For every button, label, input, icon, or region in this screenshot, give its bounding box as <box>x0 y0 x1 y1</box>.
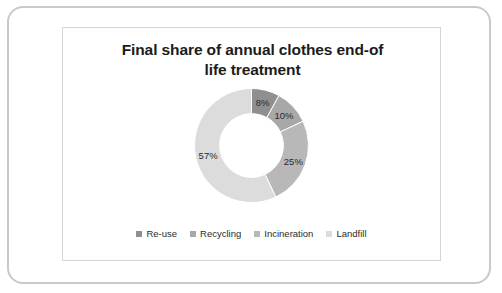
donut-chart-area: 8%10%25%57% <box>63 88 440 214</box>
donut-slice-label: 8% <box>256 97 270 108</box>
chart-legend: Re-useRecyclingIncinerationLandfill <box>63 228 440 239</box>
donut-chart <box>194 88 309 203</box>
legend-item-label: Re-use <box>146 228 177 239</box>
legend-swatch-icon <box>190 231 196 237</box>
chart-container: Final share of annual clothes end-of lif… <box>62 27 441 261</box>
donut-slice-group <box>195 89 309 203</box>
donut-slice-label: 10% <box>274 110 293 121</box>
legend-item[interactable]: Incineration <box>254 228 313 239</box>
screenshot-root: Final share of annual clothes end-of lif… <box>0 0 502 293</box>
legend-item[interactable]: Re-use <box>136 228 177 239</box>
chart-title-line-1: Final share of annual clothes end-of <box>122 41 384 58</box>
legend-item[interactable]: Landfill <box>326 228 366 239</box>
legend-swatch-icon <box>326 231 332 237</box>
chart-title: Final share of annual clothes end-of lif… <box>81 40 424 80</box>
legend-item-label: Landfill <box>336 228 366 239</box>
legend-swatch-icon <box>254 231 260 237</box>
donut-slice-label: 25% <box>284 155 303 166</box>
legend-item[interactable]: Recycling <box>190 228 241 239</box>
chart-title-line-2: life treatment <box>205 61 301 78</box>
legend-item-label: Recycling <box>200 228 241 239</box>
donut-slice-label: 57% <box>199 150 218 161</box>
legend-swatch-icon <box>136 231 142 237</box>
legend-item-label: Incineration <box>264 228 313 239</box>
